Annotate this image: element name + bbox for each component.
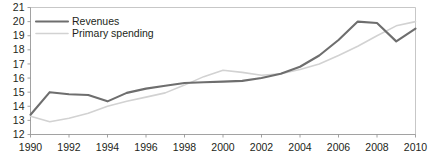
y-tick-label: 12 xyxy=(13,128,25,140)
y-tick-label: 14 xyxy=(13,100,25,112)
chart-legend: RevenuesPrimary spending xyxy=(36,15,154,39)
x-tick-label: 1996 xyxy=(134,141,158,153)
legend-label-revenues: Revenues xyxy=(72,15,119,27)
y-tick-label: 18 xyxy=(13,43,25,55)
x-tick-label: 2004 xyxy=(288,141,312,153)
chart-canvas: 12131415161718192021 1990199219941996199… xyxy=(0,0,433,165)
x-tick-label: 1992 xyxy=(57,141,81,153)
y-tick-label: 15 xyxy=(13,86,25,98)
x-tick-label: 2008 xyxy=(365,141,389,153)
x-axis-tick-marks xyxy=(31,135,416,138)
y-tick-label: 20 xyxy=(13,15,25,27)
y-tick-label: 13 xyxy=(13,114,25,126)
y-tick-label: 16 xyxy=(13,72,25,84)
y-tick-label: 19 xyxy=(13,29,25,41)
line-chart: 12131415161718192021 1990199219941996199… xyxy=(0,0,433,165)
x-tick-label: 1998 xyxy=(173,141,197,153)
y-tick-label: 17 xyxy=(13,58,25,70)
y-axis-tick-labels: 12131415161718192021 xyxy=(13,1,25,140)
x-tick-label: 2010 xyxy=(404,141,428,153)
legend-label-primary-spending: Primary spending xyxy=(72,27,154,39)
y-tick-label: 21 xyxy=(13,1,25,13)
x-tick-label: 1994 xyxy=(96,141,120,153)
x-tick-label: 2000 xyxy=(211,141,235,153)
x-axis-tick-labels: 1990199219941996199820002002200420062008… xyxy=(19,141,428,153)
x-tick-label: 2006 xyxy=(327,141,351,153)
x-tick-label: 2002 xyxy=(250,141,274,153)
x-tick-label: 1990 xyxy=(19,141,43,153)
